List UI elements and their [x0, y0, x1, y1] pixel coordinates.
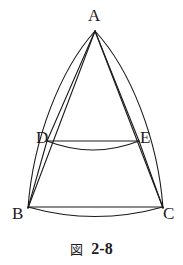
figure-caption: 図 2-8 [0, 239, 183, 258]
geometry-drawing [0, 0, 183, 265]
segment-AB [28, 31, 95, 208]
vertex-label-d: D [36, 129, 48, 146]
segment-AD [47, 31, 95, 141]
vertex-label-a: A [88, 7, 100, 24]
vertex-label-c: C [163, 205, 174, 222]
figure-caption-kanji: 図 [70, 242, 83, 257]
arc-DE-lower [47, 141, 139, 150]
vertex-label-e: E [140, 129, 150, 146]
figure-caption-number: 2-8 [91, 240, 112, 257]
geometry-figure: A B C D E 図 2-8 [0, 0, 183, 265]
segment-AE [95, 31, 139, 141]
arc-BC-lower [28, 207, 163, 217]
vertex-label-b: B [12, 205, 23, 222]
